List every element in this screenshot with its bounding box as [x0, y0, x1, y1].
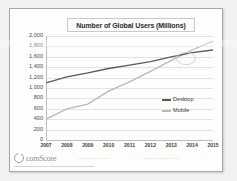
comscore-circle-logo-icon — [14, 153, 24, 163]
x-tick-label: 2012 — [145, 143, 156, 148]
legend-item-mobile[interactable]: Mobile — [162, 106, 220, 115]
slide-background: Number of Global Users (Millions) 2,0001… — [0, 0, 237, 181]
y-tick-label: 1,000 — [17, 85, 43, 91]
x-axis-line — [46, 140, 213, 141]
y-tick-label: 600 — [17, 106, 43, 112]
y-tick-label: 200 — [17, 127, 43, 133]
x-tick-label: 2013 — [166, 143, 177, 148]
comscore-logo-text: comScore — [26, 154, 56, 163]
y-tick-label: 2,000 — [17, 33, 43, 39]
plot-area: 2,0001,8001,6001,4001,2001,0008006004002… — [10, 9, 224, 173]
crossover-highlight-annotation — [176, 52, 196, 65]
footer-note-mid: – — [132, 157, 134, 160]
y-tick-label: 800 — [17, 96, 43, 102]
footer-note-right: —— ——— ——— ——— — [143, 157, 179, 160]
legend-label-desktop: Desktop — [173, 97, 194, 103]
x-tick-label: 2011 — [124, 143, 135, 148]
y-tick-label: 1,200 — [17, 75, 43, 81]
x-tick-label: 2009 — [82, 143, 93, 148]
x-tick-label: 2015 — [207, 143, 218, 148]
footer-divider — [14, 166, 94, 167]
y-tick-label: 0 — [17, 137, 43, 143]
x-tick-label: 2014 — [187, 143, 198, 148]
x-tick-label: 2008 — [61, 143, 72, 148]
x-tick-label: 2010 — [103, 143, 114, 148]
y-tick-label: 1,800 — [17, 44, 43, 50]
y-tick-label: 400 — [17, 116, 43, 122]
legend-swatch-mobile — [162, 110, 171, 112]
slide-footer: comScore ——— ————— —— – —— ——— ——— ——— — [10, 151, 224, 167]
y-axis-tick-labels: 2,0001,8001,6001,4001,2001,0008006004002… — [15, 9, 43, 173]
comscore-logo: comScore — [14, 153, 56, 163]
footer-note-left: ——— ————— —— — [78, 157, 110, 160]
x-tick-label: 2007 — [40, 143, 51, 148]
chart-legend: Desktop Mobile — [162, 95, 220, 117]
y-tick-label: 1,600 — [17, 54, 43, 60]
y-tick-label: 1,400 — [17, 64, 43, 70]
legend-swatch-desktop — [162, 99, 171, 101]
legend-label-mobile: Mobile — [173, 108, 189, 114]
legend-item-desktop[interactable]: Desktop — [162, 95, 220, 104]
chart-card: Number of Global Users (Millions) 2,0001… — [9, 8, 223, 172]
